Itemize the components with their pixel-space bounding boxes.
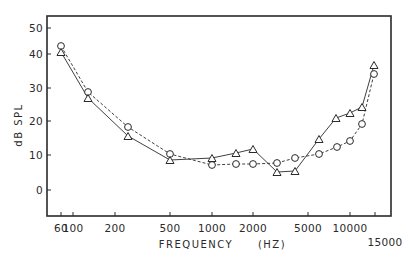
- y-tick-label: 50: [29, 22, 43, 34]
- triangle-marker-icon: [315, 136, 323, 143]
- triangle-marker-icon: [232, 150, 240, 157]
- x-tick-label: 10000: [333, 222, 368, 234]
- x-tick-label: 100: [63, 222, 84, 234]
- triangle-marker-icon: [332, 115, 340, 122]
- y-axis-title: dB SPL: [13, 103, 24, 146]
- triangle-marker-icon: [249, 146, 257, 153]
- y-tick-label: 0: [36, 184, 43, 196]
- circle-marker-icon: [334, 144, 341, 151]
- x-tick-label: 1000: [198, 222, 226, 234]
- triangle-marker-icon: [84, 95, 92, 102]
- circle-marker-icon: [359, 121, 366, 128]
- triangle-marker-icon: [358, 104, 366, 111]
- triangle-marker-icon: [57, 49, 65, 56]
- plot-frame: [47, 16, 391, 216]
- circle-marker-icon: [371, 71, 378, 78]
- y-tick-label: 10: [29, 149, 43, 161]
- y-tick-label: 30: [29, 82, 43, 94]
- circle-series-line: [61, 46, 374, 165]
- y-tick-label: 20: [29, 115, 43, 127]
- plot-border: [47, 16, 391, 216]
- triangle-marker-icon: [346, 110, 354, 117]
- y-tick-label: 40: [29, 48, 43, 60]
- x-tick-label: 5000: [294, 222, 322, 234]
- x-axis-unit: (HZ): [258, 239, 286, 250]
- circle-marker-icon: [233, 161, 240, 168]
- circle-marker-icon: [125, 124, 132, 131]
- triangle-marker-icon: [370, 62, 378, 69]
- circle-marker-icon: [274, 160, 281, 167]
- frequency-response-chart: 50403020100 6010020050010002000500010000…: [0, 0, 408, 265]
- circle-marker-icon: [209, 162, 216, 169]
- circle-marker-icon: [316, 151, 323, 158]
- circle-marker-icon: [347, 138, 354, 145]
- x-tick-label: 2000: [239, 222, 267, 234]
- x-tick-label: 15000: [368, 236, 403, 248]
- x-tick-label: 500: [160, 222, 181, 234]
- series-markers: [57, 43, 378, 176]
- x-tick-label: 200: [105, 222, 126, 234]
- x-axis-title: FREQUENCY: [159, 239, 233, 250]
- circle-marker-icon: [250, 161, 257, 168]
- circle-marker-icon: [292, 155, 299, 162]
- triangle-series-line: [61, 52, 374, 172]
- series-lines: [61, 46, 374, 172]
